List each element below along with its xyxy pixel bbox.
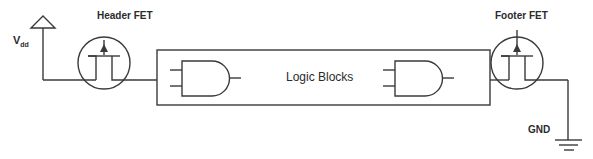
and-gate-icon: [383, 61, 454, 96]
ground-icon: [555, 140, 582, 150]
logic-blocks-label: Logic Blocks: [286, 70, 353, 84]
and-gate-icon: [170, 61, 241, 96]
gnd-label: GND: [528, 124, 550, 135]
vdd-supply-icon: [31, 16, 55, 28]
footer-fet-label: Footer FET: [495, 10, 548, 21]
vdd-subscript: dd: [20, 41, 29, 48]
footer-fet-arrow-icon: [513, 44, 521, 52]
header-fet-label: Header FET: [97, 10, 153, 21]
vdd-label: Vdd: [13, 34, 29, 48]
header-fet-icon: [78, 37, 157, 89]
header-fet-arrow-icon: [100, 44, 108, 52]
